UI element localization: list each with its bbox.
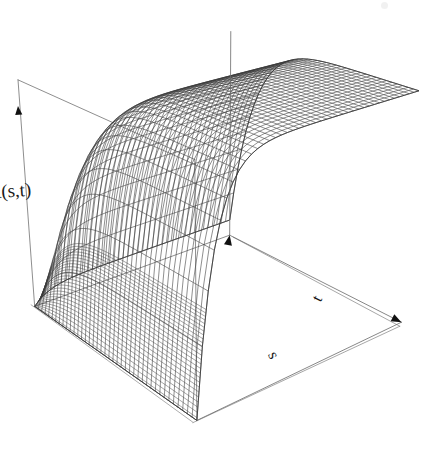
perspective-plot-root: R(s,t) s t <box>0 0 433 456</box>
plot-background <box>0 0 433 456</box>
surface-plot-svg: R(s,t) s t <box>0 0 433 456</box>
